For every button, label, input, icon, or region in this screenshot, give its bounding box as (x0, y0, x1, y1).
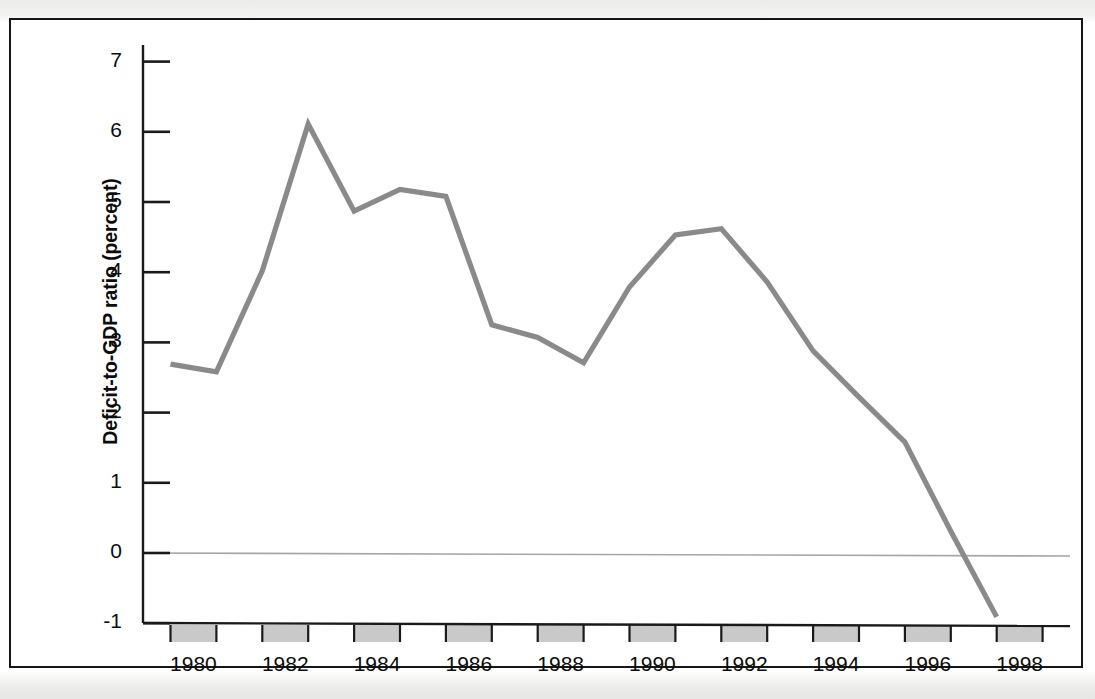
y-tick-label: 3 (78, 328, 122, 352)
y-tick-label: 0 (78, 539, 122, 563)
x-tick-label: 1984 (337, 652, 417, 676)
x-tick-label: 1980 (153, 652, 233, 676)
y-axis-tick-marks (143, 62, 170, 624)
y-tick-label: -1 (78, 609, 122, 633)
zero-reference-line (143, 553, 1070, 556)
x-tick-label: 1998 (980, 652, 1060, 676)
x-tick-label: 1992 (704, 652, 784, 676)
y-tick-label: 2 (78, 399, 122, 423)
x-tick-label: 1996 (888, 652, 968, 676)
x-axis-shaded-bands (171, 625, 1043, 642)
x-axis-band (630, 625, 676, 642)
x-axis-band (721, 625, 767, 642)
x-axis-band (354, 625, 400, 642)
x-tick-label: 1988 (521, 652, 601, 676)
x-tick-label: 1982 (245, 652, 325, 676)
y-tick-label: 6 (78, 118, 122, 142)
y-tick-label: 7 (78, 48, 122, 72)
x-axis-band (538, 625, 584, 642)
x-axis-band (997, 625, 1043, 642)
x-axis-band (905, 625, 951, 642)
page-root: Deficit-to-GDP ratio (percent) -10123456… (0, 0, 1095, 699)
y-tick-label: 4 (78, 258, 122, 282)
y-tick-label: 1 (78, 469, 122, 493)
x-axis-band (171, 625, 217, 642)
x-tick-label: 1990 (612, 652, 692, 676)
x-tick-label: 1986 (429, 652, 509, 676)
deficit-to-gdp-line-series (171, 124, 997, 617)
x-axis-band (262, 625, 308, 642)
x-tick-label: 1994 (796, 652, 876, 676)
x-axis-band (446, 625, 492, 642)
x-axis-band (813, 625, 859, 642)
line-chart-plot (0, 0, 1095, 699)
y-tick-label: 5 (78, 188, 122, 212)
